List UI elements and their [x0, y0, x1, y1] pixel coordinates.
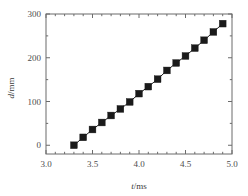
y-tick-label: 100: [28, 97, 42, 107]
chart-container: 3.03.54.04.55.0 0100200300 t/ms d/mm: [0, 0, 248, 196]
x-tick-label: 3.0: [40, 159, 52, 169]
data-point-marker: [164, 67, 171, 74]
data-point-marker: [154, 76, 161, 83]
data-point-marker: [210, 29, 217, 36]
data-point-marker: [182, 53, 189, 60]
data-point-marker: [80, 134, 87, 141]
x-tick-label: 3.5: [87, 159, 99, 169]
y-tick-label: 200: [28, 53, 42, 63]
y-axis-minor-ticks: [46, 36, 232, 124]
data-point-marker: [117, 106, 124, 113]
data-point-marker: [108, 112, 115, 119]
x-axis-major-ticks: [46, 14, 232, 154]
y-axis-title: d/mm: [6, 77, 16, 98]
y-axis-tick-labels: 0100200300: [28, 9, 42, 150]
x-tick-label: 4.0: [133, 159, 145, 169]
x-axis-tick-labels: 3.03.54.04.55.0: [40, 159, 238, 169]
y-axis-major-ticks: [46, 14, 232, 145]
y-tick-label: 300: [28, 9, 42, 19]
data-point-marker: [145, 83, 152, 90]
series-markers: [71, 20, 227, 148]
data-point-marker: [219, 20, 226, 27]
data-point-marker: [98, 119, 105, 126]
data-point-marker: [191, 45, 198, 52]
x-tick-label: 5.0: [226, 159, 238, 169]
x-axis-title: t/ms: [131, 181, 147, 191]
scatter-plot: 3.03.54.04.55.0 0100200300 t/ms d/mm: [0, 0, 248, 196]
x-tick-label: 4.5: [180, 159, 192, 169]
plot-frame: [46, 14, 232, 154]
x-axis-minor-ticks: [55, 14, 222, 154]
data-point-marker: [89, 126, 96, 133]
data-point-marker: [201, 37, 208, 44]
y-tick-label: 0: [37, 140, 42, 150]
data-point-marker: [173, 60, 180, 67]
data-point-marker: [136, 90, 143, 97]
data-point-marker: [71, 142, 78, 149]
data-point-marker: [126, 99, 133, 106]
